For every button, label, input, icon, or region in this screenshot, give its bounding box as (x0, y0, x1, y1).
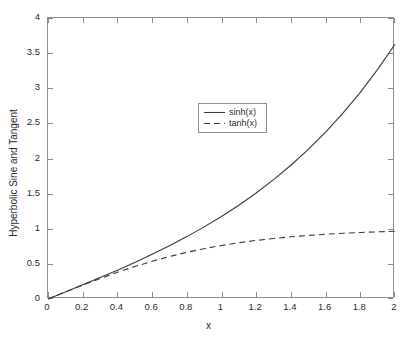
y-tick-label: 0 (35, 293, 40, 303)
figure-canvas: Hyperbolic Sine and Tangent 00.511.522.5… (0, 0, 417, 346)
x-tick-label: 0.6 (144, 302, 157, 312)
y-axis-title-text: Hyperbolic Sine and Tangent (9, 109, 19, 237)
y-axis-title: Hyperbolic Sine and Tangent (7, 0, 21, 346)
legend-entry-tanh: tanh(x) (203, 118, 262, 129)
y-tick-label: 1 (35, 223, 40, 233)
y-tick-label: 4 (35, 12, 40, 22)
y-tick-label: 0.5 (27, 258, 40, 268)
x-tick-label: 0.8 (179, 302, 192, 312)
y-tick-label: 2 (35, 153, 40, 163)
curve-sinh (48, 44, 395, 299)
plot-area: sinh(x) tanh(x) (47, 17, 394, 298)
legend-entry-sinh: sinh(x) (203, 107, 262, 118)
x-axis-title-text: x (206, 320, 211, 331)
data-curves (48, 18, 395, 299)
x-axis-title: x (0, 321, 417, 331)
y-tick-label: 3 (35, 83, 40, 93)
x-tick-label: 1.2 (249, 302, 262, 312)
legend-box: sinh(x) tanh(x) (198, 103, 267, 133)
y-tick-label: 1.5 (27, 188, 40, 198)
legend-line-sample-solid (203, 107, 226, 118)
legend-label-tanh: tanh(x) (229, 119, 257, 128)
x-tick-label: 0.2 (75, 302, 88, 312)
x-tick-label: 0.4 (110, 302, 123, 312)
y-tick-label: 2.5 (27, 118, 40, 128)
x-tick-label: 0 (44, 302, 49, 312)
curve-tanh (48, 231, 395, 299)
legend-label-sinh: sinh(x) (229, 108, 256, 117)
y-tick-label: 3.5 (27, 47, 40, 57)
legend-line-sample-dashed (203, 118, 226, 129)
x-tick-label: 1.6 (318, 302, 331, 312)
x-tick-label: 1 (218, 302, 223, 312)
x-tick-label: 1.4 (283, 302, 296, 312)
x-tick-label: 1.8 (353, 302, 366, 312)
x-tick-label: 2 (391, 302, 396, 312)
